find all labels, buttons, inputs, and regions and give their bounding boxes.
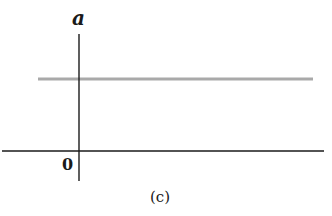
figure-caption: (c) [150, 190, 170, 205]
acceleration-graph [0, 0, 332, 216]
y-axis-label: a [72, 8, 85, 28]
origin-label: 0 [62, 157, 73, 173]
